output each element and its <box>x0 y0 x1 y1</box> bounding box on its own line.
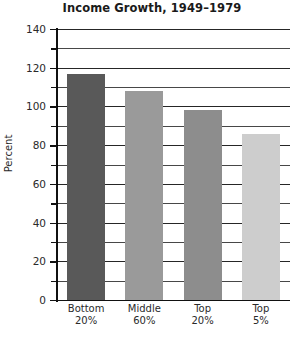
bar <box>125 91 163 300</box>
x-tick-label: Top20% <box>170 303 236 326</box>
y-tick-label: 80 <box>6 140 46 150</box>
x-tick-label: Middle60% <box>111 303 177 326</box>
y-axis-title: Percent <box>3 124 14 184</box>
bar <box>242 134 280 300</box>
income-growth-bar-chart: Income Growth, 1949–1979 Percent 0204060… <box>0 0 300 337</box>
y-tick-label: 0 <box>6 295 46 305</box>
y-tick-label: 60 <box>6 179 46 189</box>
x-tick-label-line: 20% <box>170 315 236 327</box>
x-tick-label-line: 60% <box>111 315 177 327</box>
y-tick-label: 140 <box>6 24 46 34</box>
x-tick-label-line: Top <box>170 303 236 315</box>
x-tick-label-line: Bottom <box>53 303 119 315</box>
x-tick-label: Bottom20% <box>53 303 119 326</box>
y-tick-label: 120 <box>6 63 46 73</box>
chart-title: Income Growth, 1949–1979 <box>14 1 290 15</box>
x-tick-label-line: 20% <box>53 315 119 327</box>
bar <box>67 74 105 300</box>
gridline <box>57 29 290 30</box>
plot-area <box>57 29 290 300</box>
y-tick-major <box>50 300 58 301</box>
y-tick-label: 20 <box>6 256 46 266</box>
x-tick-label-line: 5% <box>228 315 294 327</box>
bar <box>184 110 222 300</box>
y-tick-label: 40 <box>6 218 46 228</box>
x-tick-label-line: Top <box>228 303 294 315</box>
gridline <box>57 68 290 69</box>
x-tick-label: Top5% <box>228 303 294 326</box>
x-tick-label-line: Middle <box>111 303 177 315</box>
gridline <box>57 48 290 49</box>
y-tick-label: 100 <box>6 101 46 111</box>
